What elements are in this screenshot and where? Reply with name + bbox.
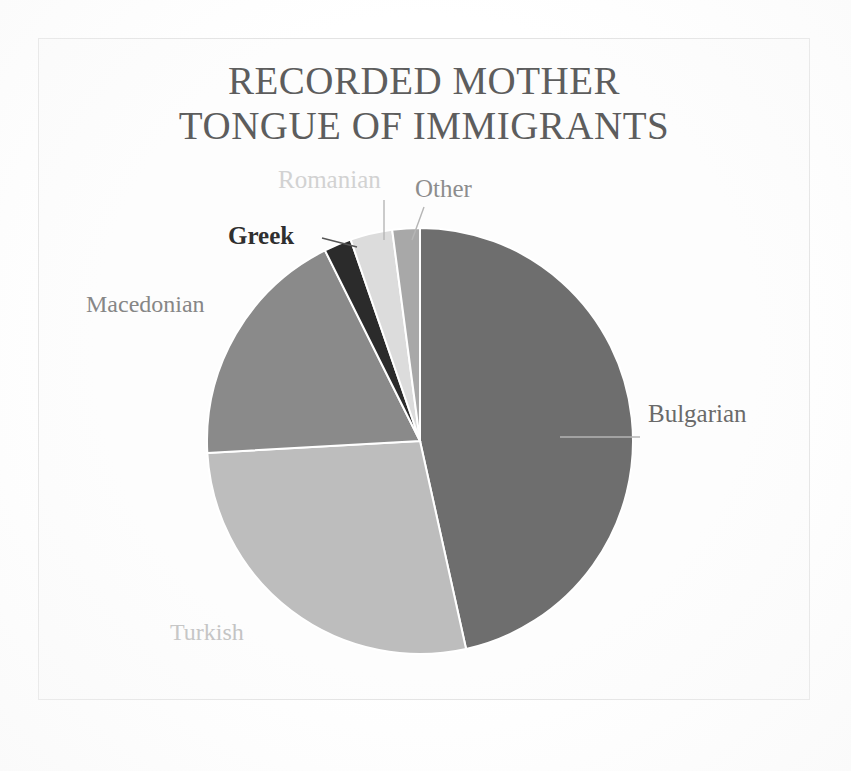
pie-label-bulgarian: Bulgarian [648, 400, 747, 428]
pie-label-other: Other [415, 175, 472, 203]
pie-label-turkish: Turkish [170, 618, 244, 646]
pie-label-romanian: Romanian [278, 166, 381, 194]
chart-title: RECORDED MOTHER TONGUE OF IMMIGRANTS [38, 58, 810, 148]
pie-label-macedonian: Macedonian [86, 290, 205, 318]
chart-title-line-1: RECORDED MOTHER [38, 58, 810, 103]
chart-page: RECORDED MOTHER TONGUE OF IMMIGRANTS Bul… [0, 0, 851, 771]
chart-title-line-2: TONGUE OF IMMIGRANTS [38, 103, 810, 148]
pie-label-greek: Greek [228, 222, 294, 250]
